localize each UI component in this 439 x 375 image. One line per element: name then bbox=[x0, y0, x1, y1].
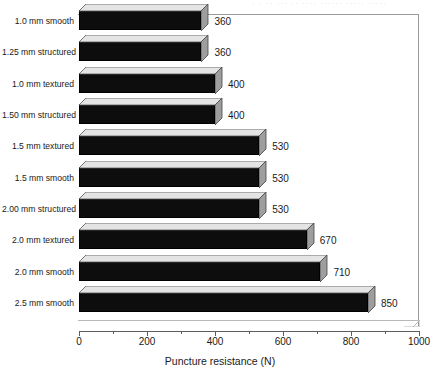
bar bbox=[79, 129, 259, 149]
bar-front-face bbox=[79, 104, 215, 124]
x-tick-100 bbox=[113, 331, 114, 334]
bar-side-face bbox=[368, 286, 375, 313]
bar-front-face bbox=[79, 229, 307, 249]
bar-chart: · · ·· ··· ·· ···· ······ ····· ····· 1.… bbox=[0, 0, 439, 375]
bar-side-face bbox=[201, 35, 208, 62]
x-tick-label-600: 600 bbox=[275, 336, 292, 347]
bar-top-face bbox=[79, 129, 259, 136]
bar-value-label: 360 bbox=[214, 16, 231, 27]
category-label: 1.5 mm smooth bbox=[2, 173, 74, 183]
bar bbox=[79, 4, 201, 24]
x-tick-label-800: 800 bbox=[343, 336, 360, 347]
x-axis-title: Puncture resistance (N) bbox=[45, 355, 395, 367]
category-label: 1.50 mm structured bbox=[2, 110, 74, 120]
x-tick-300 bbox=[181, 331, 182, 334]
plot-frame-right bbox=[418, 14, 419, 326]
category-label: 1.0 mm smooth bbox=[2, 16, 74, 26]
x-tick-700 bbox=[317, 331, 318, 334]
bar bbox=[79, 192, 259, 212]
bar bbox=[79, 255, 320, 275]
category-label: 2.0 mm smooth bbox=[2, 267, 74, 277]
bar-value-label: 360 bbox=[214, 47, 231, 58]
plot-frame-floor bbox=[78, 320, 419, 321]
bar-top-face bbox=[79, 4, 201, 11]
bar-value-label: 530 bbox=[272, 172, 289, 183]
bar bbox=[79, 67, 215, 87]
bar-top-face bbox=[79, 67, 215, 74]
bar-top-face bbox=[79, 161, 259, 168]
bar-side-face bbox=[259, 192, 266, 219]
x-tick-label-0: 0 bbox=[76, 336, 82, 347]
bar-value-label: 670 bbox=[320, 235, 337, 246]
bar-top-face bbox=[79, 255, 320, 262]
category-axis: 1.0 mm smooth1.25 mm structured1.0 mm te… bbox=[0, 0, 74, 375]
bar-side-face bbox=[215, 67, 222, 94]
bar bbox=[79, 35, 201, 55]
bar-side-face bbox=[320, 255, 327, 282]
bar-value-label: 850 bbox=[381, 298, 398, 309]
x-tick-900 bbox=[385, 331, 386, 334]
bar-value-label: 530 bbox=[272, 141, 289, 152]
bar-front-face bbox=[79, 135, 259, 155]
bar bbox=[79, 161, 259, 181]
bar-value-label: 400 bbox=[228, 110, 245, 121]
bar-front-face bbox=[79, 167, 259, 187]
category-label: 1.5 mm textured bbox=[2, 141, 74, 151]
bar-top-face bbox=[79, 286, 368, 293]
bar bbox=[79, 223, 307, 243]
category-label: 2.00 mm structured bbox=[2, 204, 74, 214]
bar bbox=[79, 286, 368, 306]
bar-front-face bbox=[79, 41, 201, 61]
scan-header-artifact: · · ·· ··· ·· ···· ······ ····· ····· bbox=[252, 0, 439, 7]
x-tick-label-200: 200 bbox=[139, 336, 156, 347]
bar-value-label: 530 bbox=[272, 204, 289, 215]
bar-front-face bbox=[79, 261, 320, 281]
bar-top-face bbox=[79, 98, 215, 105]
x-tick-label-1000: 1000 bbox=[408, 336, 430, 347]
bar-side-face bbox=[307, 223, 314, 250]
category-label: 2.5 mm smooth bbox=[2, 298, 74, 308]
bar-top-face bbox=[79, 192, 259, 199]
bar-front-face bbox=[79, 292, 368, 312]
bar-side-face bbox=[215, 98, 222, 125]
bar bbox=[79, 98, 215, 118]
category-label: 2.0 mm textured bbox=[2, 235, 74, 245]
bar-front-face bbox=[79, 10, 201, 30]
bar-side-face bbox=[259, 129, 266, 156]
category-label: 1.25 mm structured bbox=[2, 47, 74, 57]
bar-front-face bbox=[79, 73, 215, 93]
bar-value-label: 400 bbox=[228, 78, 245, 89]
plot-floor-depth bbox=[404, 320, 420, 327]
bar-side-face bbox=[201, 4, 208, 31]
bar-top-face bbox=[79, 35, 201, 42]
bar-side-face bbox=[259, 161, 266, 188]
bar-top-face bbox=[79, 223, 307, 230]
x-tick-500 bbox=[249, 331, 250, 334]
bar-front-face bbox=[79, 198, 259, 218]
category-label: 1.0 mm textured bbox=[2, 79, 74, 89]
bar-value-label: 710 bbox=[333, 266, 350, 277]
x-tick-label-400: 400 bbox=[207, 336, 224, 347]
